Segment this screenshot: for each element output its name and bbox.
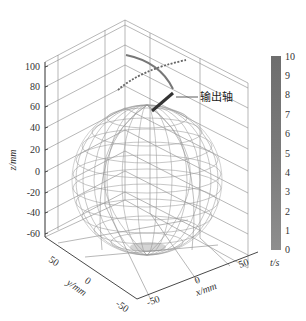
svg-text:0: 0 bbox=[35, 166, 40, 177]
svg-text:t/s: t/s bbox=[270, 257, 280, 268]
svg-text:6: 6 bbox=[285, 128, 290, 139]
svg-text:0: 0 bbox=[193, 274, 201, 286]
svg-text:2: 2 bbox=[285, 206, 290, 217]
svg-text:1: 1 bbox=[285, 225, 290, 236]
svg-text:40: 40 bbox=[30, 122, 40, 133]
svg-text:-20: -20 bbox=[27, 187, 40, 198]
svg-text:10: 10 bbox=[285, 51, 295, 62]
x-axis: -50 0 50 x/mm bbox=[137, 252, 258, 308]
svg-text:z/mm: z/mm bbox=[7, 149, 18, 171]
annotation-output-shaft: 输出轴 bbox=[200, 90, 233, 104]
svg-text:-40: -40 bbox=[27, 207, 40, 218]
sphere-bottom-shade bbox=[130, 242, 166, 252]
svg-text:4: 4 bbox=[285, 167, 290, 178]
svg-text:20: 20 bbox=[30, 144, 40, 155]
sphere-wireframe bbox=[72, 105, 222, 255]
svg-text:9: 9 bbox=[285, 70, 290, 81]
svg-text:5: 5 bbox=[285, 148, 290, 159]
svg-text:-60: -60 bbox=[27, 228, 40, 239]
svg-text:7: 7 bbox=[285, 109, 290, 120]
svg-text:50: 50 bbox=[47, 254, 62, 269]
svg-text:100: 100 bbox=[25, 61, 40, 72]
z-axis: 100 80 60 40 20 0 -20 -40 -60 z/mm bbox=[7, 61, 48, 239]
3d-plot: 输出轴 100 80 60 40 20 0 -20 -40 -60 z/mm 5… bbox=[0, 0, 306, 321]
colorbar: 10 9 8 7 6 5 4 3 2 1 0 t/s bbox=[270, 51, 295, 268]
svg-text:60: 60 bbox=[30, 101, 40, 112]
svg-text:3: 3 bbox=[285, 186, 290, 197]
svg-text:-50: -50 bbox=[114, 298, 131, 315]
svg-text:8: 8 bbox=[285, 89, 290, 100]
svg-text:0: 0 bbox=[285, 244, 290, 255]
trajectory-1 bbox=[126, 55, 173, 89]
svg-text:80: 80 bbox=[30, 81, 40, 92]
